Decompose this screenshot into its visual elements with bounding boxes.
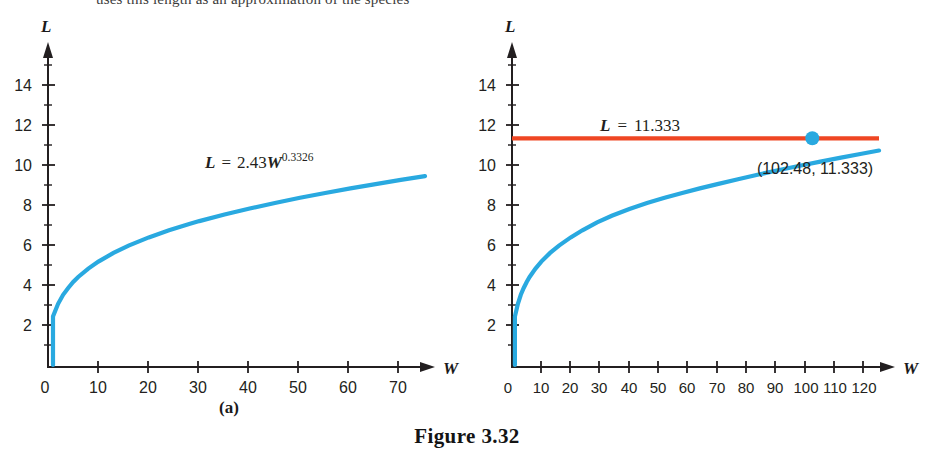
y-tick-label: 4: [23, 277, 32, 294]
x-axis-a: [48, 362, 435, 372]
y-tick-label: 6: [23, 237, 32, 254]
y-tick-label: 2: [23, 317, 32, 334]
intersection-point-label: (102.48, 11.333): [757, 160, 873, 177]
power-curve-b: [515, 151, 879, 366]
y-tick-label: 4: [487, 277, 496, 294]
x-tick-label: 50: [289, 379, 307, 396]
x-tick-label: 110: [823, 379, 847, 396]
x-tick-label: 30: [189, 379, 207, 396]
x-axis-label-b: W: [903, 359, 920, 378]
y-tick-label: 2: [487, 317, 496, 334]
x-tick-label: 70: [709, 379, 726, 396]
x-tick-label: 70: [389, 379, 407, 396]
x-tick-label: 60: [339, 379, 357, 396]
y-tick-label: 14: [478, 77, 496, 94]
y-tick-label: 6: [487, 237, 496, 254]
x-tick-label: 100: [793, 379, 818, 396]
intersection-point: [805, 131, 819, 145]
y-tick-label: 12: [478, 117, 496, 134]
y-axis-label-a: L: [40, 17, 51, 36]
y-tick-label: 8: [487, 197, 496, 214]
x-tick-label: 40: [239, 379, 257, 396]
panel-a-svg: L W 2 4 6 8 10 12 14 0 10 20 30 40 50 60…: [0, 0, 467, 430]
hline-label: L=11.333: [599, 116, 680, 135]
chart-panel-b: L W 2 4 6 8 10 12 14 0 10 20 30 40 50 60…: [467, 0, 934, 430]
y-tick-label: 8: [23, 197, 32, 214]
x-tick-label: 20: [139, 379, 157, 396]
x-tick-label: 40: [621, 379, 638, 396]
x-tick-label: 90: [767, 379, 784, 396]
y-tick-label: 10: [14, 157, 32, 174]
figure-container: uses this length as an approximation of …: [0, 0, 934, 459]
x-tick-label: 80: [738, 379, 755, 396]
x-tick-label: 10: [89, 379, 107, 396]
x-tick-label: 60: [679, 379, 696, 396]
x-tick-label: 10: [533, 379, 550, 396]
x-tick-label: 50: [650, 379, 667, 396]
hline-value: 11.333: [634, 116, 680, 135]
equation-coefficient: 2.43: [237, 153, 267, 172]
x-tick-label: 0: [504, 379, 512, 396]
hline-equals: =: [617, 116, 627, 135]
figure-caption: Figure 3.32: [0, 424, 934, 449]
y-tick-label: 14: [14, 77, 32, 94]
power-curve-a: [53, 176, 425, 365]
panel-b-svg: L W 2 4 6 8 10 12 14 0 10 20 30 40 50 60…: [467, 0, 934, 430]
equation-lhs: L: [204, 153, 215, 172]
x-tick-label: 30: [591, 379, 608, 396]
y-tick-label: 12: [14, 117, 32, 134]
x-tick-label: 0: [41, 379, 50, 396]
x-axis-label-a: W: [443, 359, 460, 378]
equation-exponent: 0.3326: [282, 151, 314, 163]
chart-panel-a: L W 2 4 6 8 10 12 14 0 10 20 30 40 50 60…: [0, 0, 467, 430]
panel-caption-a: (a): [199, 398, 259, 418]
equation-equals: =: [221, 153, 231, 172]
x-tick-label: 20: [562, 379, 579, 396]
y-axis-label-b: L: [504, 17, 515, 36]
hline-lhs: L: [599, 116, 610, 135]
equation-label-a: L=2.43W0.3326: [204, 151, 314, 172]
x-tick-label: 120: [851, 379, 876, 396]
y-tick-label: 10: [478, 157, 496, 174]
